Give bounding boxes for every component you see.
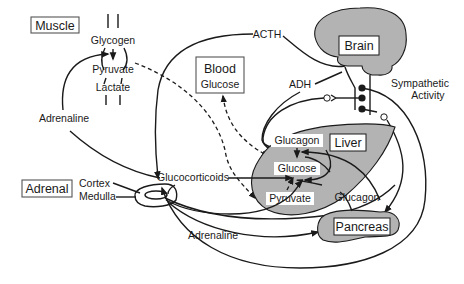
- ganglion-circle-pancreas: [381, 114, 387, 120]
- sympathetic-label-line1: Sympathetic: [391, 77, 449, 89]
- muscle-label: Muscle: [35, 19, 75, 33]
- glucose-regulation-diagram: Brain Muscle Glycogen Pyruvate Lactate A…: [0, 0, 464, 284]
- liver-label: Liver: [334, 136, 361, 150]
- ganglion-circle-liver: [324, 95, 330, 101]
- sympathetic-label-line2: Activity: [411, 89, 445, 101]
- glucocorticoids-label: Glucocorticoids: [157, 171, 229, 183]
- adrenal-label: Adrenal: [25, 182, 68, 196]
- glycogen-label: Glycogen: [91, 34, 136, 46]
- muscle-pyruvate-label: Pyruvate: [92, 63, 134, 75]
- pancreas-label: Pancreas: [336, 220, 389, 234]
- adh-from-brain-line: [315, 72, 342, 84]
- acth-label: ACTH: [253, 28, 282, 40]
- muscle-tube-top: [108, 14, 118, 28]
- liver-glucose-label: Glucose: [278, 162, 317, 174]
- brain-label: Brain: [344, 39, 373, 53]
- muscle-tube-bottom: [106, 95, 120, 105]
- pancreas-organ: Pancreas: [318, 210, 400, 242]
- medulla-label: Medulla: [79, 190, 116, 202]
- brainstem-left-line: [345, 67, 355, 110]
- adh-label: ADH: [289, 78, 311, 90]
- liver-pyruvate-label: Pyruvate: [269, 192, 311, 204]
- blood-liver-glucose-dashed-arrow: [223, 96, 268, 156]
- adrenaline-pancreas-label: Adrenaline: [188, 229, 238, 241]
- adrenaline-muscle-label: Adrenaline: [39, 112, 89, 124]
- synapse-fork: [331, 95, 336, 101]
- acth-to-cortex-arrow: [155, 34, 253, 178]
- adrenaline-medulla-line: [70, 131, 160, 178]
- liver-glucagon-label: Glucagon: [275, 134, 320, 146]
- blood-glucose-label: Glucose: [201, 78, 240, 90]
- blood-label: Blood: [204, 62, 236, 76]
- lactate-label: Lactate: [96, 81, 131, 93]
- cortex-label: Cortex: [79, 177, 111, 189]
